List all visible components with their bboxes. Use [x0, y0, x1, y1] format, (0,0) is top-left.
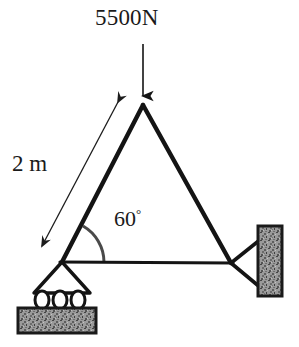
roller-circle: [71, 291, 85, 309]
angle-value: 60: [114, 206, 136, 231]
roller-support: [18, 262, 96, 333]
roller-circle: [53, 291, 67, 309]
degree-symbol-icon: °: [136, 206, 141, 221]
angle-arc: [83, 226, 104, 262]
roller-circle: [35, 291, 49, 309]
ground-block: [18, 308, 96, 333]
pin-support: [231, 226, 282, 296]
horizontal-bottom-member: [60, 262, 233, 263]
truss-diagram: 5500N 2 m 60°: [0, 0, 299, 347]
angle-label: 60°: [114, 208, 141, 230]
length-label: 2 m: [12, 152, 47, 175]
wall-block: [258, 226, 282, 296]
load-label: 5500N: [95, 6, 159, 29]
roller-support-triangle: [34, 262, 90, 293]
inclined-right-member: [143, 105, 231, 263]
inclined-left-member: [62, 105, 143, 262]
